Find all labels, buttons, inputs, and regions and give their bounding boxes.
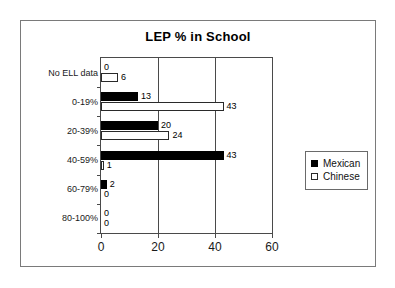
y-axis-category-label: 0-19% [72, 98, 101, 107]
bar-chinese[interactable] [101, 102, 224, 111]
legend-item-mexican[interactable]: Mexican [311, 158, 360, 169]
chart-frame: LEP % in School 0204060No ELL data060-19… [20, 20, 376, 267]
bar-value-label: 2 [110, 180, 115, 189]
bar-value-label: 20 [161, 121, 171, 130]
y-axis-category-label: 80-100% [62, 214, 101, 223]
plot-area: 0204060No ELL data060-19%134320-39%20244… [100, 57, 273, 234]
bar-value-label: 24 [172, 131, 182, 140]
y-axis-category-label: 60-79% [67, 185, 101, 194]
x-axis-tick-40 [215, 233, 216, 238]
bar-mexican[interactable] [101, 151, 224, 160]
chart-legend: Mexican Chinese [305, 151, 368, 190]
legend-item-chinese[interactable]: Chinese [311, 171, 360, 182]
chart-title: LEP % in School [21, 29, 375, 44]
bar-chinese[interactable] [101, 73, 118, 82]
bar-group-row: 20-39%2024 [101, 116, 272, 145]
y-axis-category-label: 40-59% [67, 156, 101, 165]
legend-swatch-chinese-icon [311, 173, 318, 180]
legend-label-mexican: Mexican [323, 158, 360, 169]
x-axis-label-0: 0 [98, 240, 105, 254]
x-axis-label-20: 20 [151, 240, 164, 254]
x-axis-tick-20 [158, 233, 159, 238]
y-axis-category-label: No ELL data [48, 69, 101, 78]
bar-group-row: 60-79%20 [101, 175, 272, 204]
bar-chinese[interactable] [101, 131, 169, 140]
bar-value-label: 43 [227, 102, 237, 111]
bar-value-label: 6 [121, 73, 126, 82]
legend-label-chinese: Chinese [323, 171, 360, 182]
x-axis-tick-0 [101, 233, 102, 238]
bar-value-label: 0 [104, 219, 109, 228]
bar-group-row: No ELL data06 [101, 58, 272, 87]
bar-group-row: 40-59%431 [101, 146, 272, 175]
bar-value-label: 0 [104, 190, 109, 199]
bar-value-label: 13 [141, 92, 151, 101]
bar-value-label: 1 [107, 161, 112, 170]
x-axis-tick-60 [272, 233, 273, 238]
y-axis-category-label: 20-39% [67, 127, 101, 136]
bar-group-row: 80-100%00 [101, 204, 272, 233]
bar-value-label: 0 [104, 63, 109, 72]
x-axis-label-40: 40 [208, 240, 221, 254]
x-axis-label-60: 60 [265, 240, 278, 254]
bar-value-label: 0 [104, 209, 109, 218]
bar-value-label: 43 [227, 151, 237, 160]
bar-mexican[interactable] [101, 180, 107, 189]
legend-swatch-mexican-icon [311, 160, 318, 167]
bar-mexican[interactable] [101, 121, 158, 130]
y-axis-tick [97, 233, 101, 234]
bar-group-row: 0-19%1343 [101, 87, 272, 116]
bar-chinese[interactable] [101, 161, 104, 170]
bar-mexican[interactable] [101, 92, 138, 101]
